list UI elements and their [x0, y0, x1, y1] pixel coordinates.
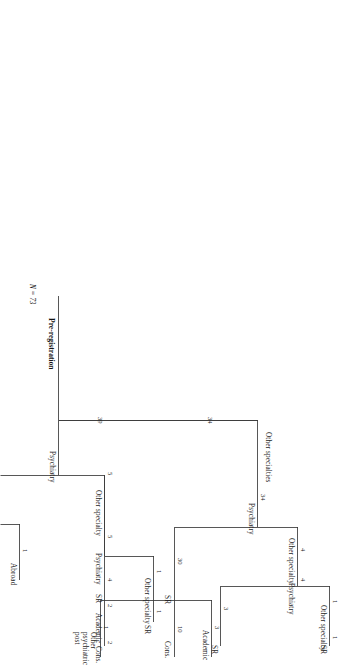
node-psychiatry-2: Psychiatry — [93, 553, 101, 585]
node-other-specialty-mid: Other specialty — [93, 490, 101, 536]
edge-count-sr30-cons: 10 — [176, 626, 183, 633]
node-sr-30: SR — [162, 595, 170, 604]
edge-count-other-specialty-psychiatry2: 5 — [106, 535, 113, 538]
edge-count-academic-cons-a: 2 — [106, 641, 113, 644]
root-node-label: Pre-registration — [46, 318, 55, 370]
node-other-specialties-top: Other specialties — [263, 432, 271, 483]
node-other-specialty-2: Other specialty — [142, 578, 150, 624]
edge-count-psych-other-specialty: 5 — [106, 472, 113, 475]
edge-count-psychiatry3-sr-d: 3 — [222, 607, 229, 610]
node-cons-f: Cons. — [162, 641, 170, 658]
node-abroad: Abroad — [8, 563, 16, 585]
node-psychiatry-main: Psychiatry — [47, 451, 55, 483]
edge-count-sr-abroad: 1 — [21, 549, 28, 552]
edge-count-other-specialty2-sr: 1 — [155, 610, 162, 613]
edge-count-other-specialties-psychiatry: 34 — [259, 494, 266, 501]
node-other-psychiatric-post: Other psychiatric post — [71, 632, 96, 665]
node-psychiatry-top: Psychiatry — [246, 503, 254, 535]
edge-count-psychiatry-top-sr30: 30 — [176, 558, 183, 565]
node-sr-a: SR — [93, 594, 101, 603]
edge-count-sr30-other-psych-post: 1 — [102, 626, 109, 629]
edge-count-other-specialty3-sr: 1 — [331, 636, 338, 639]
edge-count-psychiatry2-sr: 4 — [106, 578, 113, 581]
edge-count-other-specialty-top-psychiatry3: 4 — [299, 578, 306, 581]
edge-count-root-other-specialties: 34 — [206, 417, 213, 424]
edge-count-root-psychiatry: 39 — [96, 417, 103, 424]
edge-count-psychiatry2-other-specialty2: 1 — [155, 570, 162, 573]
node-sr-d: SR — [209, 645, 217, 654]
edge-count-psychiatry-top-other-specialty: 4 — [299, 548, 306, 551]
node-other-specialty-top: Other specialty — [286, 538, 294, 584]
node-sr-c: SR — [318, 645, 326, 654]
node-sr-b: SR — [142, 625, 150, 634]
node-other-specialty-3: Other specialty — [318, 605, 326, 651]
edge-count-psychiatry3-other-specialty3: 1 — [331, 600, 338, 603]
edge-count-sr-academic-mid: 2 — [106, 604, 113, 607]
node-psychiatry-3: Psychiatry — [286, 583, 294, 615]
edge-count-sr30-academic: 3 — [213, 626, 220, 629]
node-academic-top: Academic — [200, 630, 208, 660]
sample-size-label: N = 73 — [27, 284, 35, 304]
